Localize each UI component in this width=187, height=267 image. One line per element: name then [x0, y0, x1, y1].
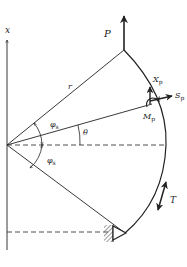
tension-T-label: T	[170, 195, 177, 205]
M_p-label: Mp	[142, 112, 155, 123]
arch-force-diagram: x P r Xp Sp Mp φs	[0, 0, 187, 267]
X_p-label: Xp	[152, 75, 163, 86]
theta-label: θ	[83, 128, 88, 137]
radius-line-bottom	[7, 145, 125, 233]
radius-line-top	[7, 50, 124, 145]
load-P: P	[103, 16, 124, 50]
radius-line-section	[7, 104, 152, 145]
x-axis-label: x	[5, 25, 10, 35]
S_p-label: Sp	[175, 91, 184, 102]
phi-lower-label: φs	[47, 156, 56, 166]
load-P-label: P	[103, 28, 111, 39]
tension-T: T	[158, 182, 177, 210]
support-wall-hatch	[104, 225, 113, 242]
support-triangle	[113, 226, 126, 240]
x-axis: x	[5, 25, 10, 250]
theta-arc	[78, 125, 80, 145]
pin-support	[104, 225, 126, 242]
phi-upper-arc	[34, 123, 42, 145]
phi-lower-arc	[30, 145, 42, 168]
radius-label: r	[68, 82, 73, 91]
M_p-moment-arrow	[147, 98, 160, 107]
angle-markers: φs φs θ	[30, 120, 88, 168]
phi-upper-label: φs	[50, 120, 59, 130]
